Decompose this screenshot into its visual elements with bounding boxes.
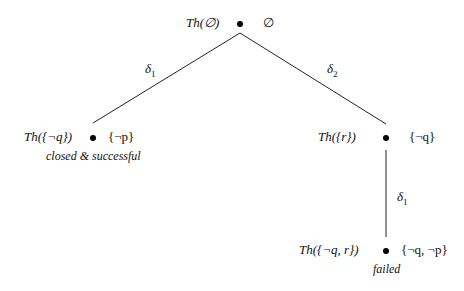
edge-label-root-right: δ2 [327, 62, 338, 81]
bottom-theory: Th({¬q, r}) [299, 243, 359, 257]
edge-label-root-left: δ1 [145, 62, 156, 81]
bottom-node-dot [383, 248, 389, 254]
right-set: {¬q} [409, 130, 435, 144]
left-theory: Th({¬q}) [24, 130, 72, 144]
left-node-dot [90, 135, 96, 141]
root-theory: Th(∅) [186, 16, 219, 30]
right-theory: Th({r}) [318, 130, 356, 144]
default-tree-diagram: Th(∅) ∅ δ1 δ2 δ1 Th({¬q}) {¬p} closed & … [0, 0, 464, 291]
bottom-status: failed [373, 262, 400, 276]
left-status: closed & successful [46, 149, 141, 163]
left-set: {¬p} [108, 130, 134, 144]
edge-root-left [93, 33, 240, 123]
root-set: ∅ [263, 16, 274, 30]
tree-edges [0, 0, 464, 291]
edge-root-right [240, 33, 386, 124]
right-node-dot [383, 135, 389, 141]
edge-label-right-bottom: δ1 [397, 190, 408, 209]
root-node-dot [237, 21, 243, 27]
bottom-set: {¬q, ¬p} [401, 243, 448, 257]
